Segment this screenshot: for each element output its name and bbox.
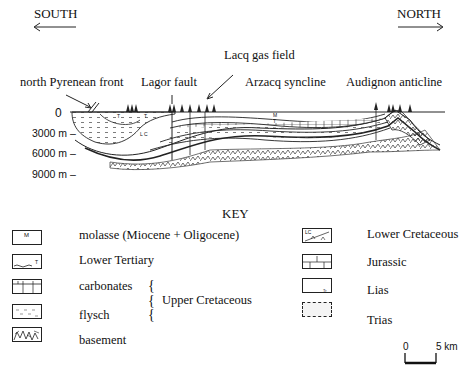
pyrenean-pointer [66, 95, 90, 107]
swatch-trias [302, 302, 332, 317]
mark-lc: L C [140, 131, 148, 137]
scale-start-label: 0 [403, 341, 409, 352]
swatch-lower-cretaceous: LC [302, 228, 332, 243]
mark-t2: T [144, 113, 147, 119]
swatch-lower-tertiary: T [12, 254, 42, 269]
swatch-molasse: M [12, 230, 42, 245]
key-label-lower-cretaceous: Lower Cretaceous [367, 227, 458, 242]
key-label-molasse: molasse (Miocene + Oligocene) [79, 228, 239, 243]
key-label-flysch: flysch [79, 308, 110, 323]
scale-end-label: 5 km [436, 341, 458, 352]
key-label-carbonates: carbonates [79, 279, 132, 294]
mark-t3: T [273, 118, 276, 124]
key-label-basement: basement [79, 333, 126, 348]
key-label-jurassic: Jurassic [367, 255, 407, 270]
mark-t1: T [117, 113, 120, 119]
key-label-lias: Lias [367, 283, 389, 298]
key-label-trias: Trias [367, 313, 392, 328]
swatch-jurassic [302, 254, 332, 269]
key-group-upper-cretaceous: Upper Cretaceous [162, 293, 252, 308]
geological-cross-section [0, 0, 471, 200]
swatch-carbonates [12, 279, 42, 294]
lacq-pointer [208, 75, 233, 98]
key-title: KEY [222, 206, 249, 222]
swatch-basement [12, 327, 42, 342]
swatch-lias: Tr [302, 278, 332, 293]
brace-1: { [148, 278, 155, 294]
brace-3: { [148, 307, 155, 323]
well-markers [126, 102, 412, 112]
scale-bar [403, 353, 443, 365]
key-label-lower-tertiary: Lower Tertiary [79, 253, 154, 268]
swatch-flysch [12, 304, 42, 319]
